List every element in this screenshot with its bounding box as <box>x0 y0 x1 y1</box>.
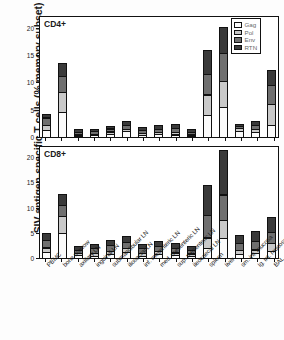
bar-segment-env <box>203 74 212 96</box>
bar-segment-env <box>219 195 228 222</box>
y-tick-label: 5 <box>30 106 34 113</box>
bar-segment-rtn <box>219 150 228 195</box>
x-tick-slot <box>221 138 230 141</box>
bar-lg-int-mucosa <box>251 121 260 137</box>
x-label-slot: liver <box>219 261 228 340</box>
legend-swatch-env <box>234 37 242 43</box>
legend-label: Pol <box>245 29 254 36</box>
bar-segment-pol <box>58 92 67 113</box>
bar-inf-mesenteric-ln <box>138 127 147 137</box>
bar-liver <box>219 27 228 137</box>
x-label-slot: bone marrow <box>57 261 66 340</box>
x-label-slot: axillary LN <box>73 261 82 340</box>
panel-label-cd4: CD4+ <box>44 19 66 29</box>
y-axis-ticks-cd8: 05101520 <box>0 146 39 259</box>
legend-label: Gag <box>245 21 257 28</box>
y-tick-mark <box>36 110 39 111</box>
x-axis-ticks-cd4 <box>41 138 279 141</box>
bar-segment-gag <box>235 254 244 258</box>
bar-segment-pol <box>203 95 212 116</box>
bar-segment-gag <box>203 115 212 137</box>
bar-segment-gag <box>154 134 163 137</box>
bar-segment-gag <box>106 134 115 137</box>
x-label-slot: inf. mesenteric LN <box>138 261 147 340</box>
panel-label-cd8: CD8+ <box>44 149 66 159</box>
y-tick-mark <box>36 233 39 234</box>
x-label-slot: BAL <box>268 261 277 340</box>
bar-pbmc <box>42 114 51 137</box>
bar-sm-int-mucosa <box>235 235 244 258</box>
legend-swatch-rtn <box>234 45 242 51</box>
y-tick-label: 10 <box>27 204 34 211</box>
bar-axillary-ln <box>74 129 83 137</box>
bar-segment-gag <box>187 136 196 137</box>
x-label-slot: sup. mesenteric LN <box>171 261 180 340</box>
bar-inguinal-ln <box>90 129 99 137</box>
bar-submandibular-ln <box>106 126 115 137</box>
bar-spleen <box>203 50 212 137</box>
legend-swatch-gag <box>234 22 242 28</box>
bar-sm-int-mucosa <box>235 124 244 137</box>
x-label-slot: iliosacral LN <box>122 261 131 340</box>
x-label-slot: submandibular LN <box>106 261 115 340</box>
y-axis-ticks-cd4: 05101520 <box>0 16 39 138</box>
x-label-slot: med. mesenteric LN <box>154 261 163 340</box>
bar-segment-env <box>267 85 276 105</box>
x-label-slot: sm. int. mucosa <box>235 261 244 340</box>
x-tick-slot <box>270 138 279 141</box>
panel-cd8: CD8+ <box>39 146 279 259</box>
x-tick-mark <box>127 138 128 141</box>
x-tick-mark <box>257 138 258 141</box>
x-tick-mark <box>208 138 209 141</box>
bar-segment-env <box>58 205 67 217</box>
y-tick-label: 20 <box>27 154 34 161</box>
x-tick-mark <box>110 138 111 141</box>
legend-item-gag[interactable]: Gag <box>234 21 257 29</box>
bar-segment-rtn <box>203 185 212 216</box>
legend: GagPolEnvRTN <box>231 18 261 54</box>
x-tick-mark <box>61 138 62 141</box>
x-tick-slot <box>139 138 148 141</box>
y-tick-label: 15 <box>27 52 34 59</box>
bar-med-mesenteric-ln <box>154 125 163 137</box>
y-tick-label: 0 <box>30 133 34 140</box>
bar-segment-gag <box>58 112 67 137</box>
bar-bone-marrow <box>58 63 67 137</box>
x-label-slot: spleen <box>203 261 212 340</box>
x-tick-slot <box>204 138 213 141</box>
bar-segment-gag <box>171 135 180 137</box>
x-tick-mark <box>274 138 275 141</box>
x-tick-mark <box>143 138 144 141</box>
y-tick-label: 5 <box>30 229 34 236</box>
y-tick-mark <box>36 157 39 158</box>
figure-container: SIV antigen-specific T cells (% memory s… <box>0 0 284 340</box>
bar-segment-gag <box>42 130 51 137</box>
y-tick-mark <box>36 28 39 29</box>
x-tick-slot <box>106 138 115 141</box>
bar-segment-gag <box>138 135 147 137</box>
x-tick-mark <box>45 138 46 141</box>
bar-bone-marrow <box>58 194 67 258</box>
bar-segment-gag <box>90 135 99 137</box>
x-label-slot: inguinal LN <box>90 261 99 340</box>
legend-item-env[interactable]: Env <box>234 36 257 44</box>
x-tick-slot <box>57 138 66 141</box>
x-label-slot: PBMC <box>41 261 50 340</box>
x-tick-mark <box>192 138 193 141</box>
bar-segment-pol <box>219 220 228 238</box>
bar-ileocaecal-ln <box>187 129 196 137</box>
plot-area-cd8 <box>40 147 278 258</box>
x-tick-mark <box>176 138 177 141</box>
legend-item-rtn[interactable]: RTN <box>234 44 257 52</box>
x-tick-slot <box>74 138 83 141</box>
legend-swatch-pol <box>234 30 242 36</box>
legend-item-pol[interactable]: Pol <box>234 29 257 37</box>
bar-segment-gag <box>267 125 276 137</box>
bar-pbmc <box>42 233 51 258</box>
bar-segment-rtn <box>58 63 67 77</box>
x-label-slot: lg. int. mucosa <box>252 261 261 340</box>
bar-segment-gag <box>235 131 244 137</box>
bar-bal <box>267 70 276 137</box>
x-tick-slot <box>41 138 50 141</box>
bar-segment-gag <box>74 136 83 137</box>
